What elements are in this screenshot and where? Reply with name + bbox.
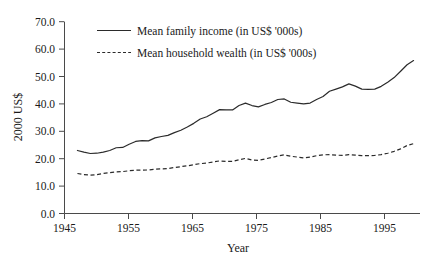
y-tick-label: 40.0 <box>35 98 55 110</box>
y-tick-label: 10.0 <box>35 180 55 192</box>
x-axis-title: Year <box>227 241 249 255</box>
x-tick-label: 1975 <box>245 222 268 234</box>
x-tick-label: 1985 <box>309 222 332 234</box>
x-tick-label: 1955 <box>117 222 140 234</box>
legend-label-income: Mean family income (in US$ '000s) <box>137 25 302 38</box>
y-tick-label: 20.0 <box>35 153 55 165</box>
x-tick-label: 1995 <box>373 222 396 234</box>
y-tick-label: 70.0 <box>35 16 55 28</box>
x-tick-label: 1945 <box>53 222 76 234</box>
y-tick-label: 30.0 <box>35 125 55 137</box>
chart-canvas: 0.0 10.0 20.0 30.0 40.0 50.0 60.0 70.0 1… <box>0 0 432 275</box>
x-tick-label: 1965 <box>181 222 204 234</box>
y-axis-title: 2000 US$ <box>11 93 25 141</box>
line-chart: 0.0 10.0 20.0 30.0 40.0 50.0 60.0 70.0 1… <box>0 0 432 275</box>
y-tick-label: 60.0 <box>35 43 55 55</box>
legend-label-wealth: Mean household wealth (in US$ '000s) <box>137 47 317 60</box>
y-tick-label: 50.0 <box>35 71 55 83</box>
y-tick-label: 0.0 <box>41 208 56 220</box>
